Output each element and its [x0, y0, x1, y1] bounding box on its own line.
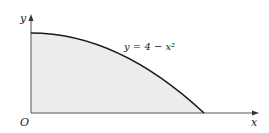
area-under-curve-diagram: y x O y = 4 − x² — [0, 0, 269, 133]
shaded-region — [31, 33, 204, 113]
y-axis-label: y — [19, 12, 27, 25]
equation-label: y = 4 − x² — [123, 41, 175, 52]
x-axis-arrow-icon — [252, 111, 259, 116]
x-axis-label: x — [251, 116, 258, 129]
origin-label: O — [20, 116, 29, 129]
y-axis-arrow-icon — [29, 14, 34, 21]
